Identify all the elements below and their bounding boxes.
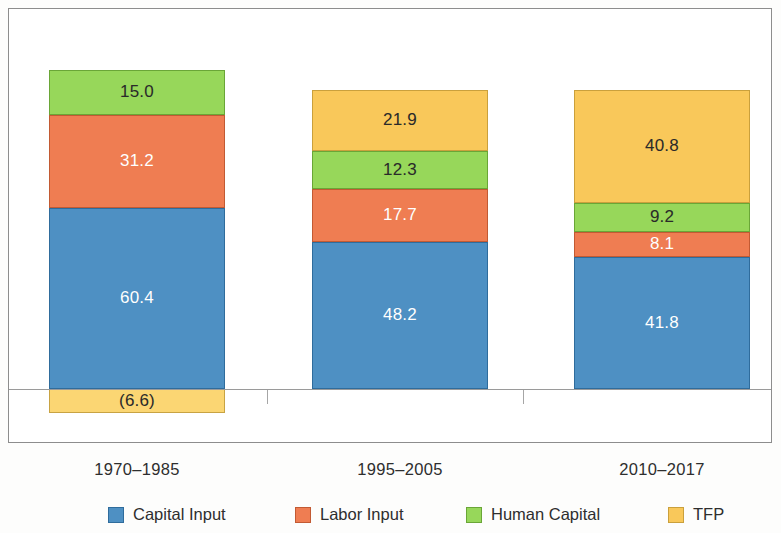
category-label-2: 1995–2005 <box>312 460 488 479</box>
bar-segment-value: 9.2 <box>650 207 674 227</box>
legend-label: Capital Input <box>133 505 226 524</box>
bar-segment-labor-input[interactable]: 17.7 <box>312 189 488 242</box>
legend-item-tfp[interactable]: TFP <box>668 505 724 524</box>
chart-legend: Capital Input Labor Input Human Capital … <box>0 505 781 533</box>
legend-label: Human Capital <box>491 505 600 524</box>
bar-segment-value: 12.3 <box>383 160 417 180</box>
bar-segment-tfp[interactable]: 40.8 <box>574 90 750 203</box>
bar-segment-value: 21.9 <box>383 110 417 130</box>
bar-segment-human-capital[interactable]: 15.0 <box>49 70 225 115</box>
bar-segment-capital-input[interactable]: 41.8 <box>574 257 750 389</box>
bar-segment-value: 40.8 <box>645 136 679 156</box>
figure-page: 15.0 31.2 60.4 (6.6) 21.9 12.3 17.7 <box>0 0 781 533</box>
bar-segment-human-capital[interactable]: 9.2 <box>574 203 750 232</box>
bar-segment-labor-input[interactable]: 8.1 <box>574 232 750 257</box>
legend-swatch-icon <box>668 507 684 523</box>
bar-group-1995-2005: 21.9 12.3 17.7 48.2 <box>312 90 488 389</box>
legend-swatch-icon <box>108 507 124 523</box>
bar-segment-value: (6.6) <box>119 391 155 411</box>
legend-item-labor-input[interactable]: Labor Input <box>295 505 403 524</box>
category-label-1: 1970–1985 <box>49 460 225 479</box>
bar-segment-labor-input[interactable]: 31.2 <box>49 115 225 208</box>
bar-segment-value: 48.2 <box>383 305 417 325</box>
category-label-3: 2010–2017 <box>574 460 750 479</box>
legend-label: TFP <box>693 505 724 524</box>
legend-swatch-icon <box>295 507 311 523</box>
legend-item-human-capital[interactable]: Human Capital <box>466 505 600 524</box>
bar-segment-value: 31.2 <box>120 151 154 171</box>
bar-segment-tfp[interactable]: 21.9 <box>312 90 488 151</box>
axis-tick <box>267 390 268 404</box>
stacked-bar-chart: 15.0 31.2 60.4 (6.6) 21.9 12.3 17.7 <box>0 0 781 533</box>
bar-group-2010-2017: 40.8 9.2 8.1 41.8 <box>574 90 750 389</box>
bar-group-1970-1985: 15.0 31.2 60.4 <box>49 70 225 389</box>
bar-segment-value: 15.0 <box>120 82 154 102</box>
legend-label: Labor Input <box>320 505 403 524</box>
bar-segment-capital-input[interactable]: 48.2 <box>312 242 488 389</box>
bar-group-1970-1985-negative: (6.6) <box>49 389 225 413</box>
bar-segment-value: 17.7 <box>383 205 417 225</box>
bar-segment-human-capital[interactable]: 12.3 <box>312 151 488 189</box>
legend-swatch-icon <box>466 507 482 523</box>
bar-segment-value: 60.4 <box>120 288 154 308</box>
bar-segment-value: 41.8 <box>645 313 679 333</box>
axis-tick <box>523 390 524 404</box>
zero-axis-line <box>9 389 771 390</box>
bar-segment-tfp-negative[interactable]: (6.6) <box>49 389 225 413</box>
bar-segment-value: 8.1 <box>650 234 674 254</box>
bar-segment-capital-input[interactable]: 60.4 <box>49 208 225 389</box>
legend-item-capital-input[interactable]: Capital Input <box>108 505 226 524</box>
